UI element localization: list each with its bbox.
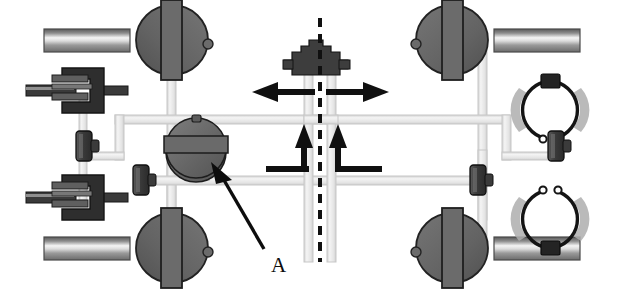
- pipe-master-feed-right: [327, 58, 336, 262]
- master-cylinder-block: [283, 40, 350, 75]
- pipe-master-feed-elbow-right: [320, 115, 338, 124]
- wheel-cylinder-left-lower: [133, 165, 156, 195]
- pipe-upper-left-circuit-h: [115, 115, 320, 124]
- brake-system-diagram: A: [0, 0, 625, 298]
- pipe-upper-right-branch: [502, 152, 554, 160]
- flow-arrow-return-left: [266, 124, 313, 172]
- pipe-upper-right-circuit-h: [320, 115, 510, 124]
- wheel-hub-front-right: [411, 0, 580, 80]
- callout-a-leader: [221, 175, 264, 249]
- disc-brake-caliper-lower-left: [26, 175, 128, 220]
- flow-arrow-return-right: [329, 124, 382, 172]
- wheel-cylinder-right-lower: [470, 165, 493, 195]
- callout-a-label: A: [271, 253, 287, 277]
- diagram-canvas: A: [0, 0, 625, 298]
- wheel-cylinder-right-middle: [548, 131, 571, 161]
- disc-brake-caliper-upper-left: [26, 68, 128, 113]
